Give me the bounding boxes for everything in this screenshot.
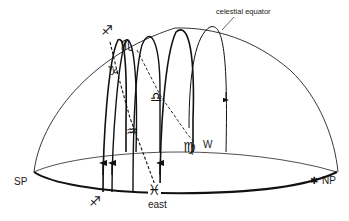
north-pole-label: NP xyxy=(322,176,336,186)
equator-leader xyxy=(222,17,234,30)
capricorn-icon: ♑ xyxy=(107,64,119,77)
scorpio-icon: ♏ xyxy=(120,38,133,52)
sagittarius-top-icon: ♐ xyxy=(101,24,113,37)
pisces-icon: ♓ xyxy=(148,183,161,197)
east-label: east xyxy=(148,200,167,210)
north-pole-star-icon: ✱ xyxy=(310,176,318,186)
virgo-icon: ♍ xyxy=(183,140,196,154)
celestial-equator-label: celestial equator xyxy=(216,8,271,16)
diurnal-arc-4 xyxy=(160,30,193,192)
diurnal-arc-5 xyxy=(189,27,226,152)
aquarius-icon: ♒ xyxy=(126,124,139,138)
celestial-sphere-diagram xyxy=(0,0,349,221)
sagittarius-bottom-icon: ♐ xyxy=(89,195,101,208)
west-label: W xyxy=(203,140,212,150)
horizon-front xyxy=(34,172,337,193)
ecliptic-dashed-2 xyxy=(137,50,195,143)
libra-icon: ♎ xyxy=(150,90,163,104)
horizon-back xyxy=(34,152,337,172)
south-pole-label: SP xyxy=(14,177,27,187)
